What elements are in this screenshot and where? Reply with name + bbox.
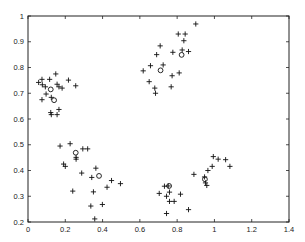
- x-tick-label: 1.4: [284, 225, 294, 234]
- y-tick-label: 0.7: [14, 89, 24, 98]
- chart-background: [0, 0, 305, 242]
- scatter-chart: 00.20.40.60.811.21.4 0.20.30.40.50.60.70…: [0, 0, 305, 242]
- x-tick-label: 0.6: [135, 225, 145, 234]
- x-tick-label: 0.8: [172, 225, 182, 234]
- y-tick-label: 0.2: [14, 218, 24, 227]
- y-tick-label: 0.9: [14, 37, 24, 46]
- y-tick-label: 0.6: [14, 115, 24, 124]
- y-tick-label: 1: [20, 12, 24, 21]
- x-tick-label: 0.2: [60, 225, 70, 234]
- y-tick-label: 0.5: [14, 140, 24, 149]
- y-tick-label: 0.4: [14, 166, 24, 175]
- x-tick-label: 0.4: [97, 225, 107, 234]
- y-tick-label: 0.8: [14, 63, 24, 72]
- x-tick-label: 1: [212, 225, 216, 234]
- y-tick-label: 0.3: [14, 192, 24, 201]
- x-tick-label: 1.2: [246, 225, 256, 234]
- x-tick-label: 0: [26, 225, 30, 234]
